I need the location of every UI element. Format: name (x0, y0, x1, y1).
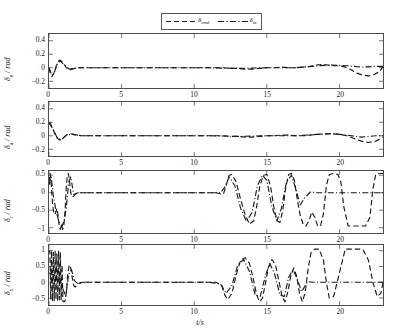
panel-delta-r-x-tick: 15 (263, 236, 271, 244)
legend-entry-delta-cmd: δcmd (166, 17, 209, 26)
panel-delta-r-x-tick: 0 (46, 236, 50, 244)
panel-delta-a-x-tick: 0 (46, 159, 50, 167)
panel-delta-t-x-tick: 15 (263, 308, 271, 316)
legend-entry-delta-ac: δac (218, 17, 257, 26)
panel-delta-r-y-tick: −0.5 (31, 207, 45, 215)
panel-delta-a-y-tick: 0 (41, 132, 45, 140)
panel-delta-t-y-tick: −0.5 (31, 295, 45, 303)
panel-delta-e-x-tick: 10 (190, 91, 198, 99)
panel-delta-r-y-ticks: 0.50−0.5−1 (23, 170, 45, 234)
panel-delta-e-x-tick: 15 (263, 91, 271, 99)
panel-delta-r-y-axis-label: δr / rad (4, 199, 14, 222)
panel-delta-t-x-tick: 0 (46, 308, 50, 316)
panel-delta-a-y-axis-label: δa / rad (4, 126, 14, 149)
panel-delta-a-series (49, 122, 383, 142)
panel-delta-t-x-tick: 5 (119, 308, 123, 316)
panel-delta-t-y-tick: 1 (41, 246, 45, 254)
panel-delta-a-axes (48, 101, 384, 157)
panel-delta-e-series (49, 60, 383, 76)
panel-delta-r-y-tick: −1 (37, 225, 45, 233)
panel-delta-e-y-tick: 0 (41, 64, 45, 72)
panel-delta-a-x-tick: 5 (119, 159, 123, 167)
panel-delta-e-y-ticks: 0.40.20−0.2 (23, 33, 45, 89)
panel-delta-a-y-tick: 0.4 (36, 104, 45, 112)
panel-delta-a-x-tick: 15 (263, 159, 271, 167)
panel-delta-r: δr / rad0.50−0.5−105101520 (48, 170, 384, 234)
panel-delta-r-series (49, 173, 383, 229)
panel-delta-e-axes (48, 33, 384, 89)
panel-delta-r-series (49, 175, 383, 226)
panel-delta-a-x-ticks: 05101520 (48, 158, 384, 169)
panel-delta-r-y-tick: 0.5 (36, 171, 45, 179)
chart-legend: δcmd δac (161, 13, 262, 30)
panel-delta-e-x-tick: 20 (336, 91, 344, 99)
panel-delta-t-axes (48, 244, 384, 306)
panel-delta-r-x-tick: 10 (190, 236, 198, 244)
panel-delta-r-axes (48, 170, 384, 234)
panel-delta-e-y-tick: −0.2 (31, 78, 45, 86)
panel-delta-e: δe / rad0.40.20−0.205101520 (48, 33, 384, 89)
legend-label-delta-cmd: δcmd (198, 17, 209, 26)
panel-delta-t-y-tick: 0.5 (36, 262, 45, 270)
panel-delta-e-x-tick: 0 (46, 91, 50, 99)
panel-delta-t: δx / rad10.50−0.505101520 (48, 244, 384, 306)
panel-delta-a: δa / rad0.40.20−0.205101520 (48, 101, 384, 157)
panel-delta-t-x-tick: 20 (336, 308, 344, 316)
legend-swatch-dashed (166, 18, 196, 25)
panel-delta-t-x-ticks: 05101520 (48, 307, 384, 318)
panel-delta-t-y-axis-label: δx / rad (4, 271, 14, 295)
legend-swatch-dashdot (218, 18, 248, 25)
panel-delta-e-y-tick: 0.4 (36, 36, 45, 44)
figure-root: δcmd δac δe / rad0.40.20−0.205101520δa /… (0, 0, 400, 335)
panel-delta-a-y-tick: −0.2 (31, 146, 45, 154)
panel-delta-e-y-tick: 0.2 (36, 50, 45, 58)
panel-delta-t-y-ticks: 10.50−0.5 (23, 244, 45, 306)
panel-delta-r-x-tick: 5 (119, 236, 123, 244)
panel-delta-t-series (49, 249, 383, 302)
panel-delta-a-x-tick: 20 (336, 159, 344, 167)
panel-delta-e-x-tick: 5 (119, 91, 123, 99)
panel-delta-a-y-ticks: 0.40.20−0.2 (23, 101, 45, 157)
panel-delta-a-x-tick: 10 (190, 159, 198, 167)
panel-delta-e-y-axis-label: δe / rad (4, 58, 14, 81)
x-axis-label: t/s (0, 319, 400, 327)
panel-delta-t-x-tick: 10 (190, 308, 198, 316)
panel-delta-a-y-tick: 0.2 (36, 118, 45, 126)
panel-delta-t-series (49, 260, 383, 297)
panel-delta-r-y-tick: 0 (41, 189, 45, 197)
panel-delta-e-x-ticks: 05101520 (48, 90, 384, 101)
panel-delta-a-series (49, 123, 383, 139)
panel-delta-t-y-tick: 0 (41, 279, 45, 287)
legend-label-delta-ac: δac (250, 17, 257, 26)
panel-delta-r-x-tick: 20 (336, 236, 344, 244)
